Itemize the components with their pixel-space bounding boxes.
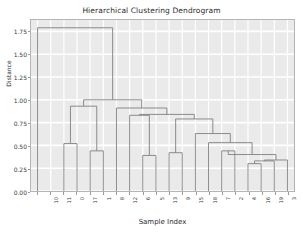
plot-area	[30, 19, 295, 192]
y-axis-label: Distance	[5, 44, 12, 104]
page-title: Hierarchical Clustering Dendrogram	[0, 6, 303, 15]
x-tick-mark	[262, 192, 263, 195]
x-tick-mark	[235, 192, 236, 195]
x-tick-label: 3	[291, 197, 297, 211]
y-tick-label: 0.50	[3, 142, 27, 149]
x-tick-mark	[76, 192, 77, 195]
x-tick-mark	[222, 192, 223, 195]
x-tick-mark	[143, 192, 144, 195]
x-tick-label: 1	[106, 197, 112, 211]
x-tick-label: 6	[145, 197, 151, 211]
y-tick-label: 0.75	[3, 119, 27, 126]
y-tick-label: 1.75	[3, 27, 27, 34]
x-tick-label: 4	[251, 197, 257, 211]
x-tick-mark	[37, 192, 38, 195]
x-tick-label: 7	[225, 197, 231, 211]
x-tick-mark	[209, 192, 210, 195]
x-tick-mark	[63, 192, 64, 195]
x-tick-label: 17	[92, 197, 98, 211]
x-tick-mark	[288, 192, 289, 195]
x-tick-label: 10	[53, 197, 59, 211]
x-tick-mark	[275, 192, 276, 195]
x-tick-label: 5	[159, 197, 165, 211]
x-tick-label: 18	[212, 197, 218, 211]
x-tick-label: 15	[198, 197, 204, 211]
y-tick-label: 0.25	[3, 165, 27, 172]
x-tick-mark	[90, 192, 91, 195]
x-tick-label: 12	[132, 197, 138, 211]
x-tick-mark	[129, 192, 130, 195]
x-tick-label: 9	[185, 197, 191, 211]
x-tick-mark	[50, 192, 51, 195]
x-tick-label: 8	[119, 197, 125, 211]
y-tick-label: 0.00	[3, 189, 27, 196]
x-tick-label: 2	[238, 197, 244, 211]
x-tick-label: 11	[66, 197, 72, 211]
x-tick-label: 0	[79, 197, 85, 211]
x-tick-mark	[103, 192, 104, 195]
x-tick-mark	[169, 192, 170, 195]
x-tick-label: 19	[278, 197, 284, 211]
x-tick-mark	[249, 192, 250, 195]
x-tick-mark	[116, 192, 117, 195]
x-tick-mark	[182, 192, 183, 195]
x-axis-label: Sample Index	[30, 218, 295, 226]
y-tick-mark	[28, 192, 30, 193]
x-tick-mark	[196, 192, 197, 195]
x-tick-mark	[156, 192, 157, 195]
dendrogram-figure: Hierarchical Clustering Dendrogram 0.000…	[0, 0, 303, 234]
x-tick-label: 16	[265, 197, 271, 211]
x-tick-label: 13	[172, 197, 178, 211]
dendrogram-links	[31, 20, 294, 191]
